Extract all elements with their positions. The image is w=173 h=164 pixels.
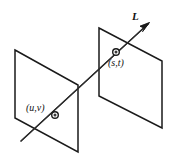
ray-line-L-overlay bbox=[21, 24, 148, 141]
ray-label-L: L bbox=[132, 11, 139, 22]
point-marker-st bbox=[113, 49, 120, 56]
back-plane-st bbox=[99, 28, 162, 128]
front-plane-point-label: (u,v) bbox=[26, 103, 45, 113]
figure-container: L (s,t) (u,v) bbox=[0, 0, 173, 164]
point-marker-uv bbox=[52, 112, 59, 119]
front-plane-uv bbox=[15, 50, 78, 152]
back-plane-point-label: (s,t) bbox=[108, 58, 124, 68]
two-plane-diagram-svg bbox=[0, 0, 173, 164]
